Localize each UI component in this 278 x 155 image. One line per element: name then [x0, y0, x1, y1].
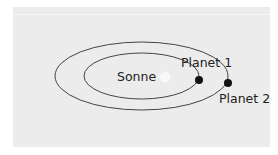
sun-icon	[160, 72, 171, 83]
planet-2-label: Planet 2	[219, 93, 270, 106]
planet-1-label: Planet 1	[181, 57, 232, 70]
planet-1-dot	[195, 76, 203, 84]
sun-label: Sonne	[117, 71, 156, 84]
planet-2-dot	[224, 79, 232, 87]
